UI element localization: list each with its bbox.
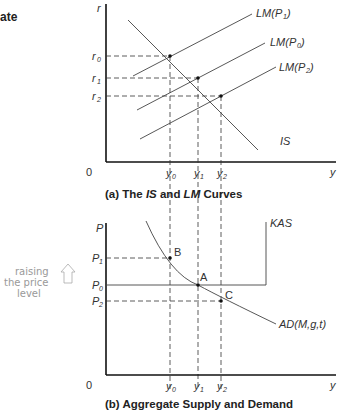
svg-text:LM(P: LM(P [279,61,306,73]
x-axis-label: y [329,166,337,178]
svg-text:LM(P: LM(P [270,36,297,48]
svg-text:1: 1 [200,173,204,180]
chart-is-lm: r y 0 r0 r1 r2 LM(P1) LM(P0 [86,2,337,390]
svg-text:2: 2 [222,173,227,180]
svg-text:2: 2 [98,301,103,308]
ad-curve [146,221,276,324]
caption-a: (a) The IS and LM Curves [105,188,242,200]
kas-curve [106,222,266,285]
svg-text:1: 1 [99,258,103,265]
p-axis-label: P [96,222,104,234]
svg-text:LM(P: LM(P [256,7,283,19]
svg-text:0: 0 [172,173,176,180]
lm-p2-curve [140,67,276,139]
is-label: IS [280,135,291,147]
caption-b: (b) Aggregate Supply and Demand [105,398,293,410]
svg-text:2: 2 [96,96,101,103]
p-ticks: P1 P0 P2 [92,252,103,308]
svg-text:level: level [17,288,41,299]
point-c: C [225,289,233,301]
lm-p2-label: LM(P2) [279,61,314,74]
chart-as-ad: P y 0 P1 P0 P2 KAS AD(M,g,t) B A C y0 y1… [4,217,337,410]
svg-text:1: 1 [200,386,204,393]
y-axis-label: r [97,2,102,14]
y-ticks-b: y0 y1 y2 [165,380,227,393]
svg-text:0: 0 [172,386,176,393]
svg-text:1: 1 [97,78,101,85]
lm-p0-curve [137,43,265,110]
lm-p0-label: LM(P0) [270,36,305,49]
svg-text:2: 2 [222,386,227,393]
ad-label: AD(M,g,t) [278,318,326,330]
svg-text:0: 0 [86,379,92,391]
y-ticks-a: y0 y1 y2 [165,167,227,180]
svg-text:raising: raising [15,266,49,277]
kas-label: KAS [270,217,293,229]
lm-p1-curve [133,14,252,76]
svg-text:y: y [329,379,337,391]
point-b: B [174,246,181,258]
origin-label: 0 [86,166,92,178]
up-arrow-icon [61,264,75,283]
r-ticks: r0 r1 r2 [92,50,101,103]
lm-p1-label: LM(P1) [256,7,291,20]
svg-text:the price: the price [4,277,48,288]
svg-text:0: 0 [99,285,103,292]
svg-text:0: 0 [97,56,101,63]
point-a: A [200,271,208,283]
handwritten-annotation: raising the price level [4,264,75,299]
is-curve [128,20,258,150]
figure: r y 0 r0 r1 r2 LM(P1) LM(P0 [0,0,340,411]
